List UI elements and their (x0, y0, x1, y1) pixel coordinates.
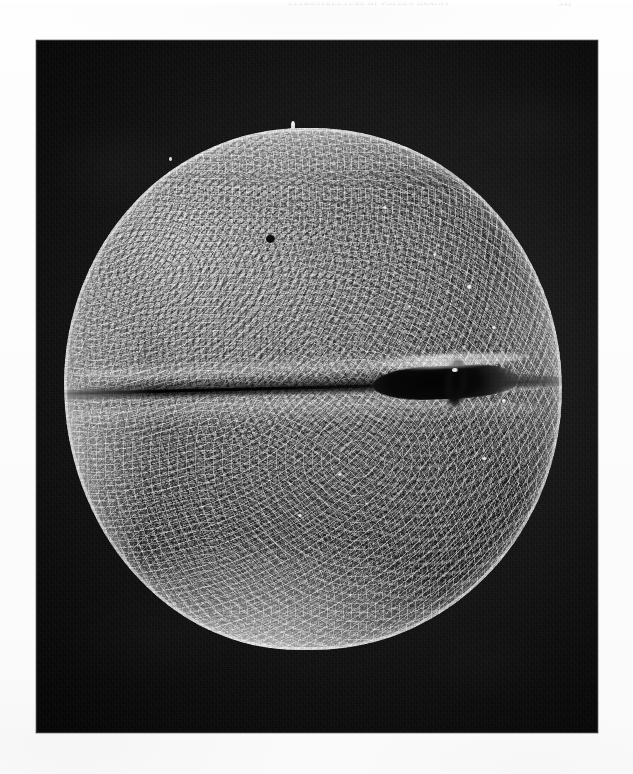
debris-particle (492, 326, 496, 329)
running-head-text: ULTRASTRUCTURE OF POLLEN GRAINS (288, 0, 588, 8)
grain-body (64, 128, 562, 650)
debris-particle (467, 285, 472, 289)
debris-particle (408, 305, 411, 308)
pollen-grain (64, 128, 562, 650)
debris-particle (482, 457, 487, 460)
edge-spike (291, 121, 295, 130)
page-number: 341 (559, 0, 572, 9)
debris-particle (338, 473, 342, 476)
journal-page: ULTRASTRUCTURE OF POLLEN GRAINS 341 (0, 0, 633, 774)
running-head: ULTRASTRUCTURE OF POLLEN GRAINS 341 (288, 0, 588, 9)
surface-pit (266, 235, 275, 243)
debris-particle (298, 514, 302, 517)
debris-particle (433, 253, 437, 256)
debris-particle (383, 206, 387, 209)
edge-spike (169, 157, 172, 161)
micrograph-plate (36, 40, 598, 733)
